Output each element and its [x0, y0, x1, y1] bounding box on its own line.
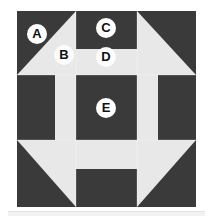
middle-right-light-bar	[137, 75, 158, 140]
unit-bottom-right-corner	[137, 140, 196, 207]
unit-middle-left-rail	[17, 75, 76, 140]
unit-bottom-center-rail	[76, 140, 137, 207]
label-marker-e: E	[96, 98, 116, 118]
unit-top-right-corner	[137, 11, 196, 75]
unit-top-left-corner	[17, 11, 76, 75]
quilt-block-figure: A B C D E	[0, 0, 213, 217]
unit-middle-right-rail	[137, 75, 196, 140]
label-marker-a: A	[27, 24, 47, 44]
middle-left-dark-bar	[17, 75, 55, 140]
label-marker-c: C	[96, 18, 116, 38]
label-marker-b: B	[54, 45, 74, 65]
footer-divider	[8, 211, 205, 216]
middle-right-dark-bar	[158, 75, 196, 140]
middle-left-light-bar	[55, 75, 76, 140]
label-marker-d: D	[96, 47, 116, 67]
unit-bottom-left-corner	[17, 140, 76, 207]
bottom-center-light-bar	[76, 140, 137, 169]
bottom-center-dark-bar	[76, 169, 137, 207]
